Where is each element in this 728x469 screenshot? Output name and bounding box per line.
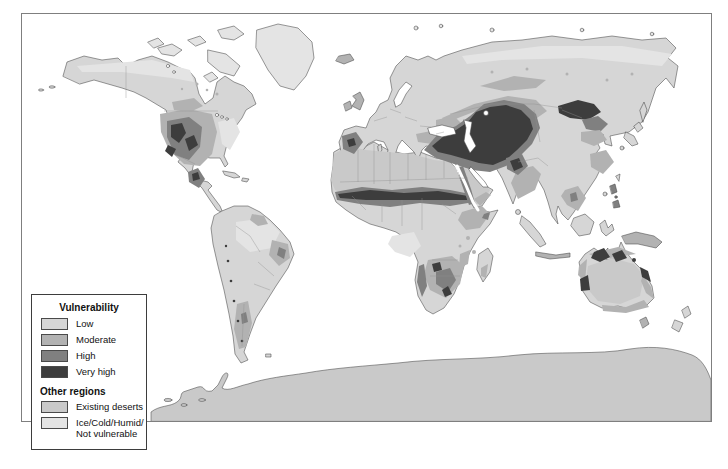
legend-row-high: High	[41, 350, 146, 362]
legend-label-existing-deserts: Existing deserts	[76, 401, 143, 412]
java	[536, 252, 570, 259]
sumatra	[520, 216, 546, 247]
great-britain	[352, 92, 364, 110]
antarctica	[151, 347, 711, 421]
legend-row-low: Low	[41, 318, 146, 330]
greenland	[256, 24, 314, 90]
legend-row-existing-deserts: Existing deserts	[41, 401, 146, 413]
philippines	[610, 184, 617, 194]
great-lakes	[215, 113, 218, 116]
legend-label-very-high: Very high	[76, 366, 116, 377]
new-zealand-north	[682, 306, 691, 318]
tasmania	[640, 317, 649, 328]
ireland	[344, 101, 352, 111]
philippines	[613, 200, 620, 208]
legend-label-not-vulnerable: Ice/Cold/Humid/ Not vulnerable	[76, 417, 144, 440]
legend-swatch-existing-deserts	[41, 401, 68, 413]
legend-other-title: Other regions	[40, 386, 146, 397]
legend-label-moderate: Moderate	[76, 334, 116, 345]
iceland	[336, 54, 354, 64]
legend-swatch-not-vulnerable	[41, 417, 68, 429]
japan	[624, 132, 638, 146]
new-zealand-south	[672, 320, 683, 332]
sulawesi	[600, 220, 614, 236]
desertification-vulnerability-map-page: { "legend": { "title": "Vulnerability", …	[0, 0, 728, 469]
legend-row-very-high: Very high	[41, 366, 146, 378]
legend-row-moderate: Moderate	[41, 334, 146, 346]
legend-title: Vulnerability	[32, 302, 146, 313]
southeast-asia-islands	[520, 184, 662, 259]
great-lakes	[221, 116, 224, 119]
legend-swatch-low	[41, 318, 68, 330]
borneo	[571, 214, 594, 236]
legend-swatch-very-high	[41, 366, 68, 378]
legend-swatch-high	[41, 350, 68, 362]
legend-label-high: High	[76, 350, 96, 361]
legend-swatch-moderate	[41, 334, 68, 346]
sri-lanka	[516, 210, 521, 215]
legend: Vulnerability Low Moderate High Very hig…	[31, 294, 147, 450]
taiwan	[616, 174, 620, 181]
legend-row-not-vulnerable: Ice/Cold/Humid/ Not vulnerable	[41, 417, 146, 440]
great-lakes	[226, 118, 229, 121]
aral-sea	[484, 111, 489, 116]
legend-label-low: Low	[76, 318, 93, 329]
new-guinea	[622, 232, 662, 248]
